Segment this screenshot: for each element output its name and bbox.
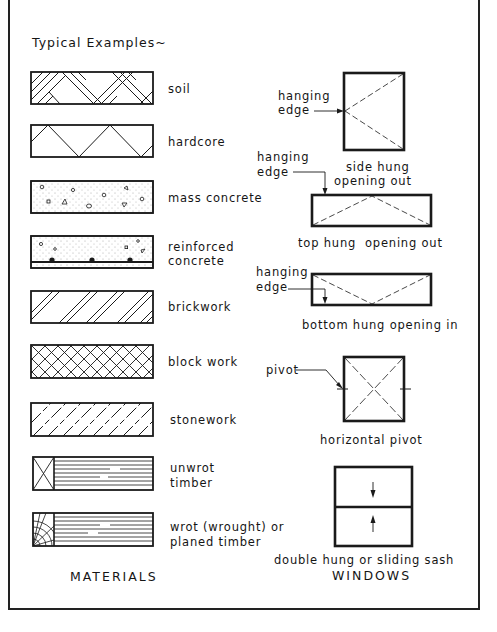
label-mass-concrete: mass concrete [168, 191, 262, 205]
wrot-timber-symbol [8, 513, 153, 571]
label-soil: soil [168, 82, 191, 96]
annotation-pivot: pivot [266, 363, 299, 377]
annotation-side-hung-1: hanging [278, 89, 330, 103]
mass-concrete-symbol [31, 181, 153, 213]
windows-title: WINDOWS [332, 568, 411, 583]
label-wrot-timber-1: wrot (wrought) or [170, 520, 284, 534]
horizontal-pivot-window-symbol [296, 357, 411, 421]
label-side-hung-2: opening out [334, 174, 412, 188]
label-unwrot-timber-2: timber [170, 476, 213, 490]
label-reinforced-concrete-2: concrete [168, 254, 225, 268]
materials-title: MATERIALS [70, 569, 158, 584]
label-bottom-hung: bottom hung opening in [302, 318, 458, 332]
reinforced-concrete-symbol [31, 236, 153, 268]
label-side-hung-1: side hung [346, 160, 410, 174]
annotation-side-hung-2: edge [278, 103, 310, 117]
soil-symbol [31, 72, 153, 104]
label-wrot-timber-2: planed timber [170, 535, 261, 549]
annotation-bottom-hung-1: hanging [256, 265, 308, 279]
label-blockwork: block work [168, 355, 238, 369]
hardcore-symbol [31, 125, 153, 157]
label-horizontal-pivot: horizontal pivot [320, 433, 423, 447]
label-unwrot-timber-1: unwrot [170, 461, 215, 475]
blockwork-symbol [5, 345, 176, 378]
label-reinforced-concrete-1: reinforced [168, 240, 234, 254]
annotation-bottom-hung-2: edge [256, 280, 288, 294]
label-double-hung: double hung or sliding sash [274, 553, 454, 567]
bottom-hung-window-symbol [288, 274, 431, 305]
annotation-top-hung-1: hanging [257, 150, 309, 164]
stonework-symbol [31, 403, 160, 436]
label-top-hung: top hung opening out [298, 236, 443, 250]
label-brickwork: brickwork [168, 300, 231, 314]
label-stonework: stonework [170, 413, 237, 427]
annotation-top-hung-2: edge [257, 165, 289, 179]
label-hardcore: hardcore [168, 135, 225, 149]
double-hung-window-symbol [335, 467, 412, 546]
unwrot-timber-symbol [33, 457, 153, 490]
brickwork-symbol [31, 291, 162, 323]
side-hung-window-symbol [314, 73, 404, 150]
